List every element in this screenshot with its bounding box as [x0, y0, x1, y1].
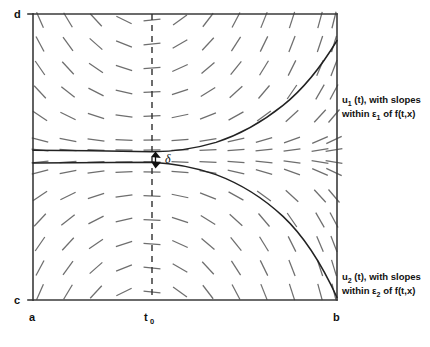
annotation-u2-line2-pre: within ε: [341, 285, 377, 296]
delta-label: δ: [165, 152, 171, 166]
annotation-u1: u1 (t), with slopes within ε1 of f(t,x): [341, 94, 421, 121]
annotation-u1-line2-pre: within ε: [341, 108, 377, 119]
slope-field-figure: δ d c a b t 0 u1 (t), with slopes within…: [0, 0, 430, 347]
axis-label-t0-main: t: [144, 311, 148, 323]
annotation-u1-line2-post: of f(t,x): [381, 108, 416, 119]
axis-label-a: a: [29, 311, 36, 323]
axis-label-d: d: [14, 8, 21, 20]
slope-tick: [172, 162, 189, 163]
annotation-u2-line1-post: (t), with slopes: [352, 271, 421, 282]
annotation-u2: u2 (t), with slopes within ε2 of f(t,x): [341, 271, 421, 298]
axis-label-t0-sub: 0: [150, 317, 154, 326]
annotation-u1-line1-post: (t), with slopes: [352, 94, 421, 105]
figure-container: δ d c a b t 0 u1 (t), with slopes within…: [0, 0, 430, 347]
axis-label-c: c: [14, 294, 20, 306]
annotation-u2-line2-post: of f(t,x): [381, 285, 416, 296]
axis-label-b: b: [333, 311, 340, 323]
